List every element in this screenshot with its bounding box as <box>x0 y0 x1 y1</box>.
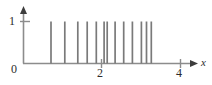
y-axis-arrow-icon <box>20 6 27 14</box>
impulse-spike-group <box>51 22 151 64</box>
y-tick-label-1: 1 <box>9 15 15 27</box>
x-tick-label-4: 4 <box>176 67 182 79</box>
x-tick-label-2: 2 <box>97 67 103 79</box>
origin-label: 0 <box>11 63 17 75</box>
impulse-train-figure: 1 0 2 4 x <box>0 0 212 85</box>
x-axis-title-label: x <box>201 57 206 68</box>
x-axis-arrow-icon <box>190 60 198 67</box>
